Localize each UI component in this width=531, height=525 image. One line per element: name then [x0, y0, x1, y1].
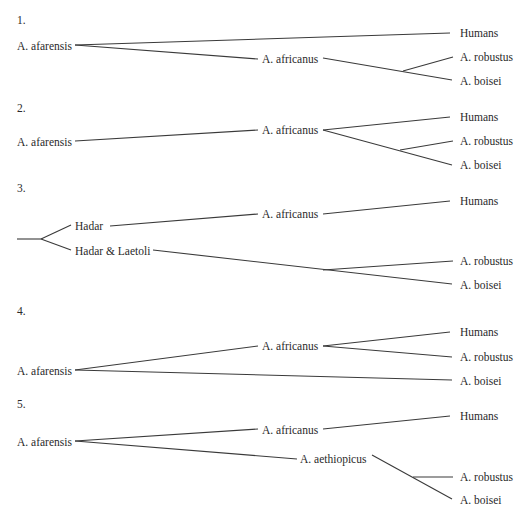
node-afarensis: A. afarensis — [17, 365, 72, 377]
node-robustus: A. robustus — [460, 51, 513, 63]
node-boisei: A. boisei — [460, 159, 502, 171]
node-hadar: Hadar — [75, 220, 103, 232]
node-afarensis: A. afarensis — [17, 436, 72, 448]
node-boisei: A. boisei — [460, 375, 502, 387]
node-boisei: A. boisei — [460, 494, 502, 506]
node-africanus: A. africanus — [262, 124, 318, 136]
node-africanus: A. africanus — [262, 208, 318, 220]
node-africanus: A. africanus — [262, 424, 318, 436]
node-humans: Humans — [460, 111, 498, 123]
diagram-number: 2. — [17, 102, 26, 114]
diagram-number: 4. — [17, 305, 26, 317]
node-boisei: A. boisei — [460, 279, 502, 291]
node-humans: Humans — [460, 326, 498, 338]
diagram-number: 3. — [17, 182, 26, 194]
node-boisei: A. boisei — [460, 75, 502, 87]
node-humans: Humans — [460, 27, 498, 39]
diagram-number: 5. — [17, 398, 26, 410]
node-robustus: A. robustus — [460, 351, 513, 363]
node-africanus: A. africanus — [262, 53, 318, 65]
node-robustus: A. robustus — [460, 135, 513, 147]
node-aethiopicus: A. aethiopicus — [300, 453, 366, 465]
node-afarensis: A. afarensis — [17, 40, 72, 52]
node-africanus: A. africanus — [262, 340, 318, 352]
node-afarensis: A. afarensis — [17, 136, 72, 148]
node-humans: Humans — [460, 410, 498, 422]
tree-lines — [0, 0, 531, 525]
node-humans: Humans — [460, 195, 498, 207]
node-robustus: A. robustus — [460, 255, 513, 267]
node-robustus: A. robustus — [460, 471, 513, 483]
diagram-number: 1. — [17, 14, 26, 26]
node-hadar-laetoli: Hadar & Laetoli — [75, 245, 150, 257]
